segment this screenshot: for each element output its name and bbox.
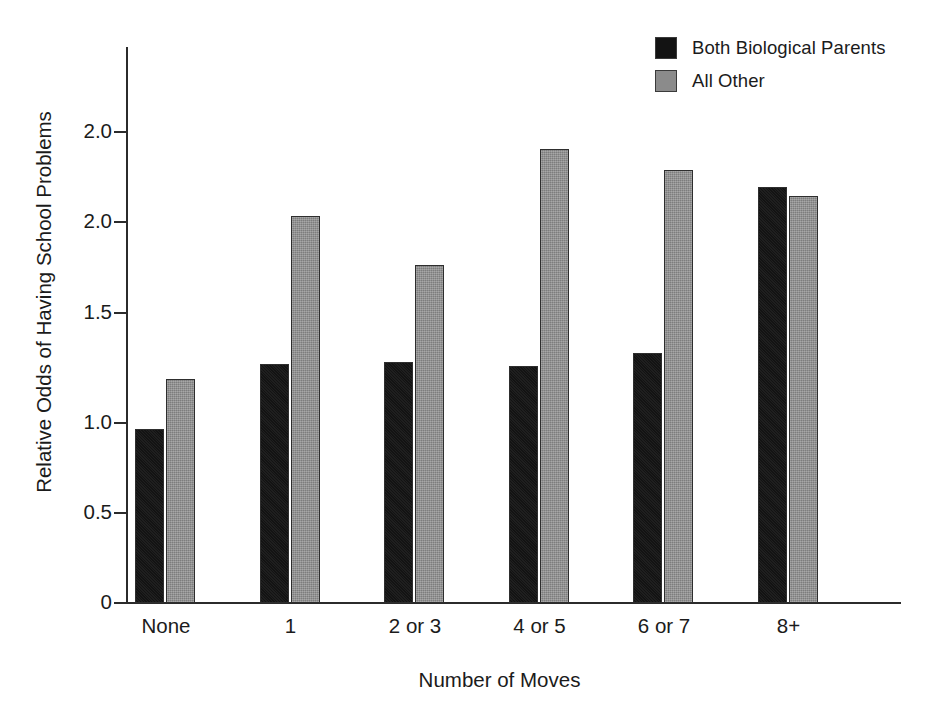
y-tick-label-0-text: 2.0 bbox=[84, 119, 113, 142]
y-tick-label-5-text: 0 bbox=[101, 590, 112, 613]
bar-6-or-7-all-other bbox=[664, 170, 693, 603]
y-tick-mark-5 bbox=[114, 602, 127, 604]
y-axis-title: Relative Odds of Having School Problems bbox=[32, 22, 56, 582]
x-tick-label-2: 2 or 3 bbox=[389, 614, 441, 638]
bar-none-all-other bbox=[166, 379, 195, 603]
bar-6-or-7-both-biological-parents bbox=[633, 353, 662, 603]
y-tick-label-1: 2.0 bbox=[0, 209, 112, 233]
bar-8--both-biological-parents bbox=[758, 187, 787, 603]
x-tick-label-3: 4 or 5 bbox=[513, 614, 565, 638]
y-tick-mark-3 bbox=[114, 422, 127, 424]
x-tick-label-5: 8+ bbox=[777, 614, 800, 638]
x-tick-label-4: 6 or 7 bbox=[638, 614, 690, 638]
bar-1-both-biological-parents bbox=[260, 364, 289, 603]
bar-none-both-biological-parents bbox=[135, 429, 164, 603]
y-tick-mark-4 bbox=[114, 512, 127, 514]
bar-1-all-other bbox=[291, 216, 320, 603]
y-tick-label-4: 0.5 bbox=[0, 500, 112, 524]
bar-2-or-3-both-biological-parents bbox=[384, 362, 413, 603]
x-axis-title: Number of Moves bbox=[0, 668, 939, 692]
legend-label-both-biological-parents: Both Biological Parents bbox=[692, 37, 886, 59]
y-tick-mark-2 bbox=[114, 312, 127, 314]
bar-series-container bbox=[0, 0, 939, 716]
legend-item-both-biological-parents: Both Biological Parents bbox=[655, 36, 886, 60]
x-axis-line bbox=[126, 602, 901, 604]
y-tick-label-5: 0 bbox=[0, 590, 112, 614]
legend-swatch-black-icon bbox=[655, 37, 677, 59]
legend-item-all-other: All Other bbox=[655, 69, 886, 93]
y-tick-label-3: 1.0 bbox=[0, 410, 112, 434]
y-tick-label-2: 1.5 bbox=[0, 300, 112, 324]
y-tick-mark-0 bbox=[114, 131, 127, 133]
bar-4-or-5-all-other bbox=[540, 149, 569, 603]
y-tick-label-0: 2.0 bbox=[0, 119, 112, 143]
legend-swatch-gray-icon bbox=[655, 70, 677, 92]
y-tick-label-3-text: 1.0 bbox=[84, 410, 113, 433]
chart-legend: Both Biological Parents All Other bbox=[655, 36, 886, 93]
bar-8--all-other bbox=[789, 196, 818, 603]
bar-2-or-3-all-other bbox=[415, 265, 444, 603]
y-tick-mark-1 bbox=[114, 221, 127, 223]
x-tick-label-0: None bbox=[141, 614, 190, 638]
bar-chart-figure: Both Biological Parents All Other 2.0 2.… bbox=[0, 0, 939, 716]
y-tick-label-4-text: 0.5 bbox=[84, 500, 113, 523]
y-tick-label-2-text: 1.5 bbox=[84, 300, 113, 323]
legend-label-all-other: All Other bbox=[692, 70, 765, 92]
y-tick-label-1-text: 2.0 bbox=[84, 209, 113, 232]
bar-4-or-5-both-biological-parents bbox=[509, 366, 538, 603]
x-tick-label-1: 1 bbox=[285, 614, 296, 638]
